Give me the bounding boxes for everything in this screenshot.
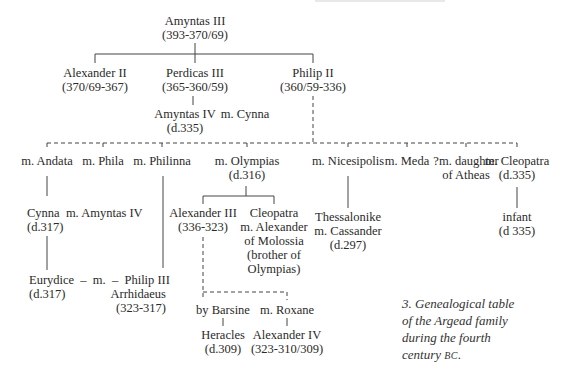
node-phila: m. Phila (82, 154, 124, 168)
node-dates: (d.309) (201, 342, 245, 356)
node-dates: (d.316) (215, 168, 280, 182)
node-name: Cynna m. Amyntas IV (27, 206, 143, 220)
node-name: m. Meda (385, 154, 429, 168)
node-name: m. Olympias (215, 154, 280, 168)
node-line: m. Alexander (240, 220, 307, 234)
node-infant: infant (d 335) (499, 210, 535, 238)
node-line3: (323-317) (116, 301, 166, 315)
node-cleopatra-daughter: Cleopatra m. Alexander of Molossia (brot… (240, 206, 307, 276)
caption-smallcaps: BC (444, 350, 458, 361)
node-dates: (d 335) (499, 224, 535, 238)
node-dates: (d.335) (485, 168, 550, 182)
node-dates: (d.297) (314, 238, 381, 252)
node-meda: m. Meda (385, 154, 429, 168)
caption-text: century (402, 347, 444, 362)
node-philinna: m. Philinna (133, 154, 191, 168)
node-name: infant (499, 210, 535, 224)
node-dates: (d.335) (154, 121, 215, 135)
caption-line: 3. Genealogical table (402, 295, 514, 312)
node-name: Philip II (280, 66, 346, 80)
node-name: Alexander III (169, 206, 237, 220)
node-roxane: m. Roxane (260, 303, 314, 317)
caption-line: century BC. (402, 346, 514, 364)
node-line2: Arrhidaeus (110, 287, 166, 301)
caption-line: during the fourth (402, 329, 514, 346)
node-cynna: Cynna m. Amyntas IV (d.317) (27, 206, 143, 234)
node-name: m. Phila (82, 154, 124, 168)
node-line: Cleopatra (240, 206, 307, 220)
node-dates: (d.317) (29, 287, 65, 301)
node-alexander-ii: Alexander II (370/69-367) (62, 66, 128, 94)
node-olympias: m. Olympias (d.316) (215, 154, 280, 182)
node-name: Amyntas III (162, 14, 228, 28)
node-philip-ii: Philip II (360/59-336) (280, 66, 346, 94)
node-name: m. Cleopatra (485, 154, 550, 168)
node-dates: (365-360/59) (162, 80, 228, 94)
node-dates: (360/59-336) (280, 80, 346, 94)
node-name: m. Roxane (260, 303, 314, 317)
node-dates: (393-370/69) (162, 28, 228, 42)
node-dates: (d.317) (27, 220, 143, 234)
node-eurydice-dates: (d.317) (29, 287, 65, 301)
node-eurydice-philip-iii: Eurydice – m. – Philip III (29, 273, 170, 287)
caption-text: . (458, 347, 461, 362)
node-alexander-iii: Alexander III (336-323) (169, 206, 237, 234)
node-line: of Molossia (240, 234, 307, 248)
node-perdicas-iii: Perdicas III (365-360/59) (162, 66, 228, 94)
node-dates: (336-323) (169, 220, 237, 234)
node-name: Alexander IV (251, 328, 323, 342)
node-thessalonike: Thessalonike m. Cassander (d.297) (314, 210, 381, 252)
node-name: m. Andata (21, 154, 72, 168)
node-amyntas-iii: Amyntas III (393-370/69) (162, 14, 228, 42)
node-name: m. Nicesipolis (312, 154, 384, 168)
node-nicesipolis: m. Nicesipolis (312, 154, 384, 168)
node-name: Perdicas III (162, 66, 228, 80)
node-name: m. Philinna (133, 154, 191, 168)
caption-line: of the Argead family (402, 312, 514, 329)
node-andata: m. Andata (21, 154, 72, 168)
figure-caption: 3. Genealogical table of the Argead fami… (402, 295, 514, 364)
node-amyntas-iv: Amyntas IV (d.335) (154, 107, 215, 135)
node-line: (brother of (240, 248, 307, 262)
node-line: Olympias) (240, 262, 307, 276)
node-name: Eurydice – m. – Philip III (29, 273, 170, 287)
node-alexander-iv: Alexander IV (323-310/309) (251, 328, 323, 356)
node-name: by Barsine (196, 303, 250, 317)
node-cleopatra-wife: m. Cleopatra (d.335) (485, 154, 550, 182)
node-heracles: Heracles (d.309) (201, 328, 245, 356)
node-name: Alexander II (62, 66, 128, 80)
node-dates: (323-310/309) (251, 342, 323, 356)
node-amyntas-iv-spouse: m. Cynna (221, 107, 270, 121)
node-name: Heracles (201, 328, 245, 342)
node-name: Thessalonike (314, 210, 381, 224)
node-barsine: by Barsine (196, 303, 250, 317)
node-line2: m. Cassander (314, 224, 381, 238)
node-spouse: m. Cynna (221, 107, 270, 121)
node-dates: (370/69-367) (62, 80, 128, 94)
node-name: Amyntas IV (154, 107, 215, 121)
